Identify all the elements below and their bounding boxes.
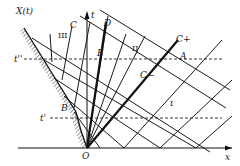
t-double-prime-label: t'' (14, 54, 23, 64)
piston-path (20, 28, 87, 148)
t-axis-label: t (91, 10, 95, 20)
x-axis-label: x (225, 152, 230, 162)
point-D-label: D (103, 18, 111, 28)
c-plus-label: C+ (176, 34, 190, 44)
origin-label: O (82, 151, 90, 161)
point-E-label: E (96, 48, 104, 58)
point-A-label: A (179, 51, 187, 61)
region-III-label: III (58, 31, 67, 40)
characteristics-diagram: X(t) t x O t'' t' A B C D E C+ C− I II I… (0, 0, 240, 166)
region-II-label: II (132, 44, 138, 53)
piston-label: X(t) (15, 6, 34, 16)
region-I-label: I (170, 99, 173, 108)
point-B-label: B (60, 103, 68, 113)
t-prime-label: t' (40, 113, 46, 123)
c-minus-label: C− (140, 70, 154, 80)
point-C-label: C (70, 20, 77, 30)
